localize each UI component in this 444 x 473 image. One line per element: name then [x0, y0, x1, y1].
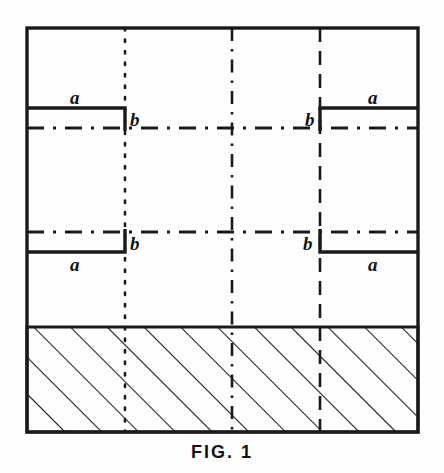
figure-drawing: a b b a a b b a FIG. 1	[0, 0, 444, 473]
label-upper-left-step-b: b	[130, 109, 140, 130]
label-lower-right-surface-a: a	[368, 254, 378, 275]
label-upper-right-surface-a: a	[368, 87, 378, 108]
hatched-foundation-block	[27, 327, 418, 432]
label-lower-left-step-b: b	[130, 233, 140, 254]
label-lower-left-surface-a: a	[70, 254, 80, 275]
label-upper-left-surface-a: a	[70, 87, 80, 108]
figure-caption: FIG. 1	[191, 442, 253, 462]
label-upper-right-step-b: b	[305, 109, 315, 130]
patent-figure-page: a b b a a b b a FIG. 1	[0, 0, 444, 473]
label-lower-right-step-b: b	[303, 233, 313, 254]
